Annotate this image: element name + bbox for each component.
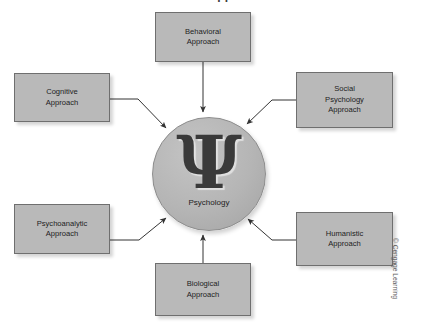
node-label-line1: Psychoanalytic xyxy=(37,219,88,230)
node-psychoanalytic-approach[interactable]: Psychoanalytic Approach xyxy=(14,204,110,254)
node-social-psychology-approach[interactable]: Social Psychology Approach xyxy=(296,72,393,128)
node-label-line2: Approach xyxy=(328,239,361,250)
node-behavioral-approach[interactable]: Behavioral Approach xyxy=(155,12,251,62)
figure-canvas: The Seven Approaches Behavioral Approach… xyxy=(0,0,423,334)
node-label-line1: Humanistic xyxy=(326,229,364,240)
node-label-line2: Approach xyxy=(187,290,220,301)
node-biological-approach[interactable]: Biological Approach xyxy=(155,263,251,316)
node-label-line1: Social xyxy=(334,84,355,95)
arrow-social-to-psychology xyxy=(247,100,296,124)
node-label-line2: Psychology xyxy=(325,95,364,106)
node-label-line2: Approach xyxy=(46,98,79,109)
node-label-line1: Cognitive xyxy=(46,87,78,98)
central-node-psychology[interactable]: Ψ Psychology xyxy=(152,117,266,231)
node-label-line3: Approach xyxy=(328,105,361,116)
copyright-credit: © Cengage Learning xyxy=(392,238,399,299)
arrow-humanistic-to-psychology xyxy=(248,219,296,240)
node-cognitive-approach[interactable]: Cognitive Approach xyxy=(14,73,110,122)
node-label-line2: Approach xyxy=(187,37,220,48)
node-label-line2: Approach xyxy=(46,229,79,240)
node-humanistic-approach[interactable]: Humanistic Approach xyxy=(296,212,393,266)
psi-symbol-icon: Ψ xyxy=(153,122,265,204)
node-label-line1: Behavioral xyxy=(185,27,221,38)
arrow-psychoanalytic-to-psychology xyxy=(110,218,166,240)
node-label-line1: Biological xyxy=(187,279,220,290)
central-node-label: Psychology xyxy=(153,198,265,207)
